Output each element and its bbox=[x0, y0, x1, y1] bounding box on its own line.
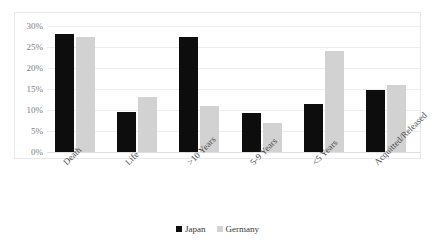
chart-legend: JapanGermany bbox=[0, 224, 435, 234]
bar-group bbox=[47, 26, 109, 152]
bar-chart: 0%5%10%15%20%25%30% DeathLife>10 Years5-… bbox=[0, 0, 435, 249]
bar-japan bbox=[366, 90, 385, 152]
y-axis-tick: 0% bbox=[13, 148, 43, 157]
y-axis-tick: 25% bbox=[13, 43, 43, 52]
bar-germany bbox=[138, 97, 157, 152]
y-axis-tick: 5% bbox=[13, 127, 43, 136]
plot-area bbox=[47, 12, 420, 159]
legend-item-germany[interactable]: Germany bbox=[217, 224, 260, 234]
bar-group bbox=[296, 26, 358, 152]
y-axis-tick: 15% bbox=[13, 85, 43, 94]
y-axis-tick: 10% bbox=[13, 106, 43, 115]
bar-japan bbox=[117, 112, 136, 152]
clipped-header-text bbox=[0, 0, 435, 9]
legend-swatch-icon bbox=[176, 226, 182, 232]
x-axis-labels: DeathLife>10 Years5-9 Years<5 YearsAcqui… bbox=[47, 160, 420, 220]
legend-swatch-icon bbox=[217, 226, 223, 232]
y-axis-tick: 20% bbox=[13, 64, 43, 73]
y-axis: 0%5%10%15%20%25%30% bbox=[14, 12, 46, 159]
bar-japan bbox=[179, 37, 198, 152]
legend-label: Germany bbox=[226, 224, 260, 234]
legend-item-japan[interactable]: Japan bbox=[176, 224, 206, 234]
bar-japan bbox=[304, 104, 323, 152]
y-axis-tick: 30% bbox=[13, 22, 43, 31]
bar-japan bbox=[55, 34, 74, 152]
bar-group bbox=[171, 26, 233, 152]
bar-germany bbox=[325, 51, 344, 152]
bar-group bbox=[234, 26, 296, 152]
bar-japan bbox=[242, 113, 261, 152]
bar-germany bbox=[76, 37, 95, 152]
legend-label: Japan bbox=[185, 224, 206, 234]
bar-group bbox=[109, 26, 171, 152]
